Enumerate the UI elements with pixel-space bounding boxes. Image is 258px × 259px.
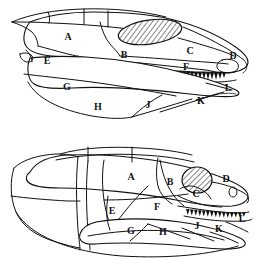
label-lower-K: K: [215, 223, 223, 234]
suture-j-k: [132, 99, 192, 117]
label-upper-A: A: [64, 31, 72, 42]
label-upper-E: E: [44, 55, 51, 66]
label-upper-D: D: [229, 50, 236, 61]
label-lower-E: E: [109, 205, 116, 216]
label-lower-H: H: [159, 226, 167, 237]
label-lower-C: C: [192, 188, 199, 199]
label-upper-B: B: [121, 49, 128, 60]
label-lower-J: J: [195, 220, 200, 231]
label-upper-F: F: [183, 61, 189, 72]
tooth-row-lower: [186, 209, 246, 218]
label-upper-L: L: [225, 82, 232, 93]
lower-skull-group: A B C D E F G H J K L: [11, 147, 252, 257]
label-upper-K: K: [197, 95, 205, 106]
label-lower-L: L: [239, 213, 246, 224]
label-lower-F: F: [154, 201, 160, 212]
label-lower-D: D: [222, 173, 229, 184]
label-upper-J: J: [146, 99, 151, 110]
label-upper-C: C: [186, 45, 193, 56]
label-lower-G: G: [127, 225, 135, 236]
skull-diagram-svg: A B C D E F G H J K L: [0, 0, 258, 259]
suture-k-tip: [160, 94, 218, 112]
label-lower-B: B: [167, 176, 174, 187]
label-upper-G: G: [63, 81, 71, 92]
lower-occiput-mid: [11, 196, 80, 201]
skull-figure: A B C D E F G H J K L: [0, 0, 258, 259]
label-lower-A: A: [127, 171, 135, 182]
lower-skull-outline: [26, 155, 248, 206]
upper-skull-group: A B C D E F G H J K L: [12, 9, 248, 119]
label-upper-H: H: [94, 101, 102, 112]
